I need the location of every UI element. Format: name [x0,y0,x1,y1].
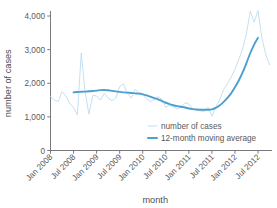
y-axis-tick-label: 4,000 [25,12,46,21]
x-axis-tick-label: Jul 2012 [234,152,263,181]
legend-label-moving-average: 12-month moving average [161,134,257,143]
y-axis-tick-label: 3,000 [25,46,46,55]
x-axis-title: month [142,195,168,205]
x-axis-tick-label: Jan 2008 [24,152,55,183]
chart-figure: 01,0002,0003,0004,000Jan 2008Jul 2008Jan… [0,0,277,208]
y-axis-tick-label: 1,000 [25,113,46,122]
y-axis-tick-label: 2,000 [25,79,46,88]
line-chart: 01,0002,0003,0004,000Jan 2008Jul 2008Jan… [0,0,277,208]
y-axis-tick-label: 0 [40,147,45,156]
legend-label-number-of-cases: number of cases [161,122,222,131]
y-axis-title: number of cases [3,49,13,117]
